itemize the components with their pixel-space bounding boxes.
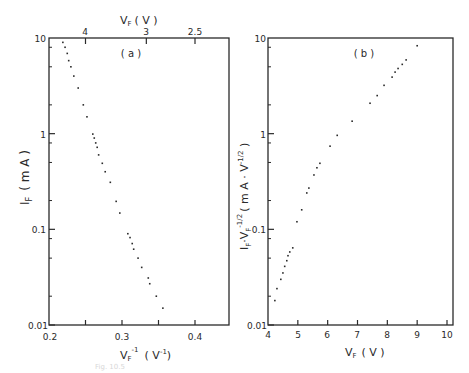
panel-b-x-ticks bbox=[298, 320, 447, 325]
b-x-tick-label: 4 bbox=[265, 330, 271, 340]
data-point bbox=[276, 288, 278, 290]
a-x-tick-label: 0.3 bbox=[115, 332, 129, 342]
data-point bbox=[313, 174, 315, 176]
data-point bbox=[77, 87, 79, 89]
b-x-tick-label: 5 bbox=[295, 330, 301, 340]
figure-caption: Fig. 10.5 bbox=[95, 363, 125, 371]
data-point bbox=[394, 71, 396, 73]
data-point bbox=[86, 116, 88, 118]
data-point bbox=[274, 300, 276, 302]
data-point bbox=[104, 171, 106, 173]
data-point bbox=[127, 233, 129, 235]
data-point bbox=[282, 272, 284, 274]
b-x-tick-label: 10 bbox=[441, 330, 453, 340]
data-point bbox=[369, 102, 371, 104]
data-point bbox=[96, 147, 98, 149]
data-point bbox=[289, 251, 291, 253]
data-point bbox=[376, 95, 378, 97]
data-point bbox=[280, 279, 282, 281]
data-point bbox=[93, 137, 95, 139]
data-point bbox=[306, 192, 308, 194]
a-top-tick-label: 3 bbox=[143, 27, 149, 37]
data-point bbox=[336, 135, 338, 137]
data-point bbox=[62, 42, 64, 44]
panel-a-top-ticks bbox=[86, 38, 196, 44]
data-point bbox=[119, 212, 121, 214]
a-x-tick-label: 0.2 bbox=[43, 332, 57, 342]
panel-a-x-axis-title: VF-1( V-1) bbox=[120, 346, 171, 363]
data-point bbox=[397, 68, 399, 70]
data-point bbox=[98, 154, 100, 156]
data-point bbox=[73, 75, 75, 77]
data-point bbox=[316, 167, 318, 169]
data-point bbox=[101, 163, 103, 165]
data-point bbox=[66, 53, 68, 55]
data-point bbox=[319, 163, 321, 165]
panel-a-y-ticks bbox=[49, 47, 55, 325]
data-point bbox=[296, 221, 298, 223]
b-y-tick-label: 1 bbox=[260, 130, 266, 140]
panel-a-frame bbox=[49, 38, 229, 325]
b-y-tick-label: 0.1 bbox=[252, 225, 266, 235]
panel-a-y-axis-title: IF( m A ) bbox=[18, 150, 34, 205]
a-x-tick-label: 0.4 bbox=[188, 332, 203, 342]
panel-b-y-ticks bbox=[268, 47, 274, 325]
panel-a-x-ticks bbox=[86, 320, 196, 325]
data-point bbox=[68, 60, 70, 62]
data-point bbox=[301, 209, 303, 211]
data-point bbox=[416, 45, 418, 47]
panel-a-data-points bbox=[62, 42, 164, 309]
data-point bbox=[391, 76, 393, 78]
b-x-tick-label: 7 bbox=[354, 330, 360, 340]
b-x-tick-label: 6 bbox=[324, 330, 330, 340]
panel-b-y-axis-title: IF·VF-1/2( m A · V-1/2 ) bbox=[236, 143, 253, 250]
b-y-tick-label: 0.01 bbox=[247, 321, 267, 331]
data-point bbox=[351, 120, 353, 122]
data-point bbox=[292, 247, 294, 249]
panel-a: ( a ) 10 1 0.1 0.01 0.2 0.3 0.4 4 3 2.5 … bbox=[18, 14, 229, 363]
panel-b-label: ( b ) bbox=[354, 48, 375, 59]
panel-b-x-axis-title: VF( V ) bbox=[345, 346, 385, 360]
data-point bbox=[401, 64, 403, 66]
panel-b: ( b ) 10 1 0.1 0.01 4 5 6 7 8 9 10 VF( V… bbox=[236, 34, 453, 360]
b-x-tick-label: 8 bbox=[384, 330, 390, 340]
panel-a-label: ( a ) bbox=[121, 48, 141, 59]
data-point bbox=[115, 201, 117, 203]
a-y-tick-label: 10 bbox=[35, 34, 47, 44]
data-point bbox=[286, 260, 288, 262]
data-point bbox=[149, 283, 151, 285]
panel-b-data-points bbox=[274, 45, 418, 301]
data-point bbox=[308, 187, 310, 189]
data-point bbox=[137, 257, 139, 259]
a-top-tick-label: 4 bbox=[82, 27, 88, 37]
data-point bbox=[92, 133, 94, 135]
data-point bbox=[133, 248, 135, 250]
a-y-tick-label: 0.01 bbox=[28, 321, 48, 331]
data-point bbox=[110, 182, 112, 184]
figure: ( a ) 10 1 0.1 0.01 0.2 0.3 0.4 4 3 2.5 … bbox=[0, 0, 469, 373]
data-point bbox=[405, 59, 407, 61]
panel-b-frame bbox=[268, 38, 453, 325]
a-top-tick-label: 2.5 bbox=[188, 27, 202, 37]
panel-a-top-axis-title: VF( V ) bbox=[120, 14, 158, 28]
data-point bbox=[141, 267, 143, 269]
data-point bbox=[287, 255, 289, 257]
data-point bbox=[129, 237, 131, 239]
data-point bbox=[83, 104, 85, 106]
data-point bbox=[162, 307, 164, 309]
data-point bbox=[156, 295, 158, 297]
b-x-tick-label: 9 bbox=[414, 330, 420, 340]
data-point bbox=[329, 145, 331, 147]
data-point bbox=[70, 66, 72, 68]
data-point bbox=[147, 277, 149, 279]
b-y-tick-label: 10 bbox=[255, 34, 267, 44]
a-y-tick-label: 0.1 bbox=[32, 225, 46, 235]
a-y-tick-label: 1 bbox=[40, 130, 46, 140]
data-point bbox=[95, 142, 97, 144]
data-point bbox=[284, 266, 286, 268]
data-point bbox=[383, 85, 385, 87]
data-point bbox=[131, 243, 133, 245]
data-point bbox=[64, 46, 66, 48]
